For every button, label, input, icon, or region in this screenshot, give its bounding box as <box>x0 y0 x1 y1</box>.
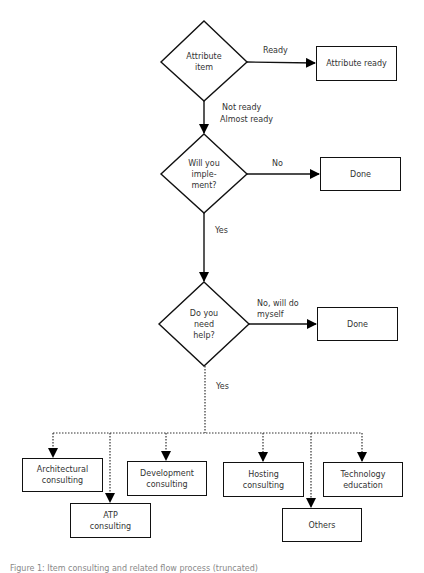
decision-help-label: Do you need help? <box>169 308 239 341</box>
outcome-done-1: Done <box>320 157 401 191</box>
edge-label-no: No <box>272 158 283 169</box>
decision-implement-label: Will you imple- ment? <box>169 158 239 191</box>
service-others: Others <box>282 508 362 542</box>
service-development-consulting: Development consulting <box>127 461 207 496</box>
edge-label-no-will-do-myself: No, will do myself <box>257 298 299 320</box>
outcome-done-2: Done <box>317 307 398 341</box>
edge-label-ready: Ready <box>263 45 288 56</box>
service-atp-consulting: ATP consulting <box>70 503 151 538</box>
edge-label-yes-1: Yes <box>215 225 228 236</box>
service-hosting-consulting: Hosting consulting <box>223 462 304 497</box>
decision-attribute-label: Attribute item <box>169 51 239 73</box>
service-architectural-consulting: Architectural consulting <box>22 458 103 492</box>
edge-label-almost-ready: Almost ready <box>220 114 273 125</box>
edge-label-yes-2: Yes <box>216 381 229 392</box>
service-technology-education: Technology education <box>323 462 403 497</box>
outcome-attribute-ready: Attribute ready <box>316 46 397 81</box>
edge-label-not-ready: Not ready <box>222 102 261 113</box>
figure-caption: Figure 1: Item consulting and related fl… <box>10 564 258 573</box>
